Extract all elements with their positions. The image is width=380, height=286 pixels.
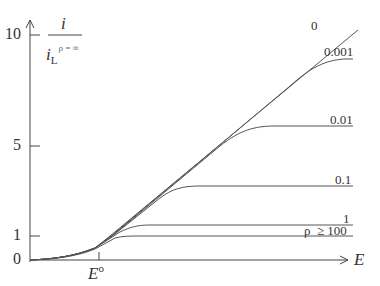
x-tick-label-e: E	[88, 264, 98, 283]
ylabel-denominator: iLρ = ∞	[46, 45, 78, 65]
y-tick-label-0: 0	[13, 250, 21, 268]
curve-label-0.001: 0.001	[324, 44, 353, 60]
x-tick-label-degree: o	[98, 262, 104, 274]
chart-canvas	[0, 0, 380, 286]
x-tick-label-e0: Eo	[88, 262, 104, 284]
ylabel-numerator: i	[61, 14, 66, 34]
curve-label-rho-100: ρ ≥ 100	[304, 223, 347, 239]
y-tick-label-5: 5	[13, 136, 21, 154]
curve-label-0.1: 0.1	[335, 172, 351, 188]
curve-rho-100	[30, 236, 353, 260]
y-tick-label-1: 1	[13, 226, 21, 244]
curve-rho-0.01	[30, 126, 353, 260]
curve-label-0.01: 0.01	[330, 112, 353, 128]
ylabel-denominator-sub: L	[51, 54, 58, 66]
curve-label-0: 0	[311, 18, 318, 34]
ylabel-denominator-sup: ρ = ∞	[58, 43, 78, 53]
y-tick-label-10: 10	[5, 25, 21, 43]
x-axis-label: E	[354, 250, 364, 270]
